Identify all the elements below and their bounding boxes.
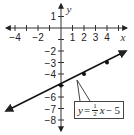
eq-equals: =	[84, 104, 90, 116]
ytick-label: −8	[45, 115, 57, 126]
data-point	[59, 84, 63, 88]
xtick-label: 1	[70, 32, 76, 43]
xtick-label: 2	[81, 32, 87, 43]
xtick-label: −4	[9, 32, 21, 43]
data-point	[105, 61, 109, 65]
xtick-label: 4	[104, 32, 110, 43]
ytick-label: −3	[45, 58, 57, 69]
ytick-label: −7	[45, 104, 57, 115]
eq-constant: − 5	[106, 104, 120, 116]
ytick-label: −2	[45, 46, 57, 57]
y-axis-label: y	[66, 3, 72, 15]
eq-x: x	[100, 104, 105, 116]
eq-denominator: 2	[93, 111, 97, 118]
eq-y: y	[78, 104, 83, 116]
callout-pointer	[77, 80, 90, 101]
ytick-label: −6	[45, 92, 57, 103]
eq-fraction: 1 2	[92, 103, 98, 118]
data-point	[82, 72, 86, 76]
equation-label: y = 1 2 x − 5	[74, 101, 124, 119]
ytick-label: 1	[50, 11, 56, 22]
ytick-label: −4	[45, 69, 57, 80]
xtick-label: 3	[93, 32, 99, 43]
x-axis-label: x	[120, 31, 126, 43]
xtick-label: −2	[32, 32, 44, 43]
